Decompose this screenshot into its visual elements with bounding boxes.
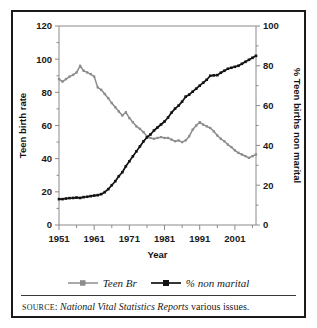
series-marker-1 <box>146 136 149 139</box>
series-marker-0 <box>139 128 141 130</box>
legend-label-teen-br: Teen Br <box>103 277 137 289</box>
source-prefix: SOURCE <box>22 303 55 312</box>
series-marker-0 <box>163 137 165 139</box>
series-marker-0 <box>61 80 63 82</box>
series-marker-1 <box>118 175 121 178</box>
series-marker-0 <box>255 153 257 155</box>
series-marker-1 <box>107 188 110 191</box>
series-marker-1 <box>195 87 198 90</box>
series-marker-0 <box>79 65 81 67</box>
legend-item-non-marital[interactable]: % non marital <box>151 277 250 289</box>
series-marker-1 <box>82 196 85 199</box>
series-marker-1 <box>167 116 170 119</box>
series-marker-0 <box>160 136 162 138</box>
series-marker-0 <box>114 106 116 108</box>
series-marker-0 <box>220 138 222 140</box>
series-marker-1 <box>177 104 180 107</box>
legend-item-teen-br[interactable]: Teen Br <box>68 277 137 289</box>
series-marker-0 <box>216 134 218 136</box>
series-marker-1 <box>181 100 184 103</box>
series-marker-0 <box>234 149 236 151</box>
series-line-0 <box>59 66 256 158</box>
x-axis-title: Year <box>147 249 167 260</box>
series-marker-1 <box>58 198 61 201</box>
series-marker-0 <box>142 131 144 133</box>
x-ticklabel: 1961 <box>84 233 106 244</box>
x-ticklabel: 1991 <box>189 233 211 244</box>
series-marker-1 <box>209 74 212 77</box>
series-marker-1 <box>244 61 247 64</box>
dual-axis-line-chart: 0204060801001200204060801001951196119711… <box>13 12 304 274</box>
series-marker-1 <box>230 66 233 69</box>
series-marker-0 <box>100 89 102 91</box>
series-marker-1 <box>241 63 244 66</box>
series-marker-0 <box>93 75 95 77</box>
series-marker-1 <box>174 107 177 110</box>
series-marker-1 <box>103 191 106 194</box>
series-marker-0 <box>213 130 215 132</box>
series-marker-1 <box>160 123 163 126</box>
y-ticklabel-right: 40 <box>263 140 274 151</box>
series-marker-1 <box>188 93 191 96</box>
series-marker-1 <box>237 65 240 68</box>
series-marker-0 <box>149 137 151 139</box>
series-marker-0 <box>202 124 204 126</box>
series-marker-1 <box>96 194 99 197</box>
series-marker-1 <box>202 81 205 84</box>
series-marker-0 <box>72 74 74 76</box>
y-ticklabel-right: 60 <box>263 100 274 111</box>
series-marker-1 <box>132 155 135 158</box>
series-marker-0 <box>135 125 137 127</box>
series-marker-0 <box>86 71 88 73</box>
series-marker-1 <box>142 140 145 143</box>
series-marker-0 <box>82 70 84 72</box>
series-marker-1 <box>135 150 138 153</box>
series-marker-0 <box>104 93 106 95</box>
y-axis-title-left: Teen birth rate <box>17 93 28 158</box>
series-marker-0 <box>156 137 158 139</box>
series-marker-0 <box>181 141 183 143</box>
series-marker-1 <box>139 145 142 148</box>
series-marker-0 <box>192 129 194 131</box>
series-marker-1 <box>198 84 201 87</box>
series-marker-0 <box>184 139 186 141</box>
series-marker-1 <box>227 67 230 70</box>
series-marker-0 <box>128 117 130 119</box>
series-marker-1 <box>128 160 131 163</box>
x-ticklabel: 1971 <box>119 233 141 244</box>
chart-legend: Teen Br % non marital <box>13 270 304 296</box>
series-marker-0 <box>90 73 92 75</box>
series-marker-0 <box>195 124 197 126</box>
series-marker-0 <box>111 102 113 104</box>
series-marker-0 <box>58 78 60 80</box>
series-marker-1 <box>191 90 194 93</box>
series-marker-0 <box>209 127 211 129</box>
series-marker-0 <box>118 110 120 112</box>
series-marker-1 <box>220 71 223 74</box>
y-ticklabel-left: 40 <box>41 153 52 164</box>
x-ticklabel: 1981 <box>154 233 176 244</box>
series-marker-0 <box>223 140 225 142</box>
series-marker-1 <box>61 198 64 201</box>
legend-marker-non-marital <box>151 278 181 288</box>
series-marker-1 <box>184 95 187 98</box>
series-marker-0 <box>167 137 169 139</box>
series-marker-1 <box>68 197 71 200</box>
series-marker-1 <box>216 74 219 77</box>
series-marker-1 <box>223 69 226 72</box>
y-ticklabel-left: 0 <box>47 219 52 230</box>
series-marker-1 <box>79 197 82 200</box>
series-marker-0 <box>241 153 243 155</box>
series-marker-0 <box>251 155 253 157</box>
series-marker-1 <box>75 196 78 199</box>
source-suffix: various issues. <box>188 301 249 312</box>
chart-plot-area: 0204060801001200204060801001951196119711… <box>13 12 304 274</box>
series-marker-0 <box>75 71 77 73</box>
series-marker-1 <box>149 133 152 136</box>
series-marker-1 <box>170 111 173 114</box>
series-marker-0 <box>177 139 179 141</box>
legend-label-non-marital: % non marital <box>186 277 250 289</box>
series-marker-0 <box>248 157 250 159</box>
y-ticklabel-left: 60 <box>41 120 52 131</box>
series-marker-1 <box>153 129 156 132</box>
